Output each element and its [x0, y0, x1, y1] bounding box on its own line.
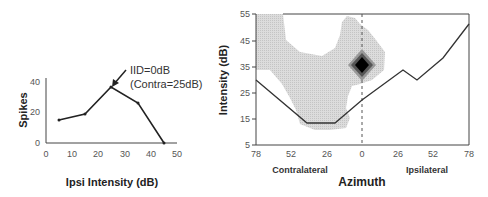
- ytick: 0: [35, 138, 40, 148]
- ytick: 25: [240, 88, 250, 98]
- annotation-line1: IID=0dB: [130, 64, 170, 76]
- ytick: 55: [240, 9, 250, 19]
- xtick: 0: [359, 149, 364, 159]
- xtick: 26: [322, 149, 332, 159]
- right-y-label: Intensity (dB): [217, 45, 229, 116]
- ytick: 20: [30, 107, 40, 117]
- left-x-label: Ipsi Intensity (dB): [66, 176, 159, 188]
- left-chart: 40 20 0 0 10 20 30 40 50 IID=0dB (Contra…: [17, 64, 202, 188]
- ytick: 35: [240, 62, 250, 72]
- right-chart: 55 45 35 25 15 5 78 52 26 0 26 52 78 Con…: [217, 9, 474, 189]
- xtick: 30: [120, 149, 130, 159]
- xtick: 26: [393, 149, 403, 159]
- xtick: 78: [464, 149, 474, 159]
- left-y-label: Spikes: [17, 92, 29, 127]
- figure: 40 20 0 0 10 20 30 40 50 IID=0dB (Contra…: [0, 0, 488, 197]
- xtick: 50: [172, 149, 182, 159]
- ytick: 15: [240, 114, 250, 124]
- xtick: 78: [251, 149, 261, 159]
- xtick: 10: [67, 149, 77, 159]
- ytick: 45: [240, 36, 250, 46]
- xtick: 52: [428, 149, 438, 159]
- right-y-ticks: [252, 14, 256, 145]
- contralateral-label: Contralateral: [272, 165, 328, 175]
- annotation-line2: (Contra=25dB): [130, 78, 202, 90]
- ytick: 5: [245, 140, 250, 150]
- right-x-label: Azimuth: [338, 175, 385, 189]
- ipsilateral-label: Ipsilateral: [406, 165, 448, 175]
- spikes-line: [59, 87, 164, 143]
- xtick: 20: [93, 149, 103, 159]
- xtick: 0: [43, 149, 48, 159]
- ytick: 40: [30, 77, 40, 87]
- xtick: 40: [146, 149, 156, 159]
- xtick: 52: [286, 149, 296, 159]
